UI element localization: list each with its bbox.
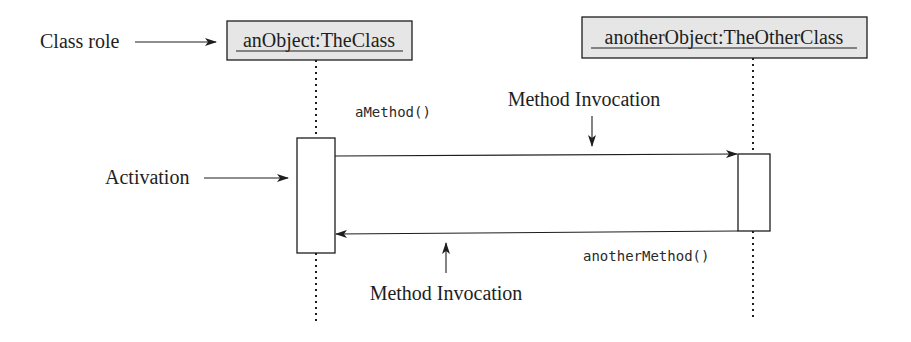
annotation-method-invocation-top: Method Invocation (508, 88, 661, 110)
message-label-anothermethod: anotherMethod() (583, 248, 709, 264)
message-arrow-anothermethod (336, 231, 738, 234)
object-label-anotherobject: anotherObject:TheOtherClass (605, 26, 844, 49)
sequence-diagram: anObject:TheClass anotherObject:TheOther… (0, 0, 911, 342)
annotation-class-role: Class role (40, 30, 120, 52)
message-label-amethod: aMethod() (355, 104, 431, 120)
message-arrow-amethod (335, 154, 737, 156)
object-box-anobject: anObject:TheClass (227, 21, 412, 60)
annotation-method-invocation-bottom: Method Invocation (370, 282, 523, 304)
activation-bar-anobject (297, 138, 335, 253)
activation-bar-anotherobject (738, 154, 770, 231)
annotation-activation: Activation (105, 166, 189, 188)
object-box-anotherobject: anotherObject:TheOtherClass (582, 17, 867, 58)
object-label-anobject: anObject:TheClass (243, 29, 395, 52)
